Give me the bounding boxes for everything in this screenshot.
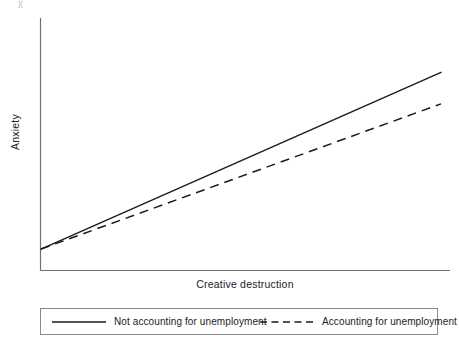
legend-label: Not accounting for unemployment <box>114 316 267 327</box>
chart-figure: Anxiety Creative destruction Not account… <box>0 0 459 349</box>
series-line-accounting-for-unemployment <box>41 104 441 249</box>
legend-swatch-solid-line <box>51 317 107 327</box>
legend-swatch-dashed-line <box>259 317 315 327</box>
legend-item-accounting-for-unemployment[interactable]: Accounting for unemployment <box>259 309 457 334</box>
x-axis-label: Creative destruction <box>40 278 450 290</box>
legend-item-not-accounting-for-unemployment[interactable]: Not accounting for unemployment <box>51 309 267 334</box>
legend-label: Accounting for unemployment <box>322 316 457 327</box>
plot-area <box>0 0 459 349</box>
legend: Not accounting for unemployment Accounti… <box>40 308 438 335</box>
series-line-not-accounting-for-unemployment <box>41 72 441 249</box>
y-axis-label: Anxiety <box>9 97 21 167</box>
